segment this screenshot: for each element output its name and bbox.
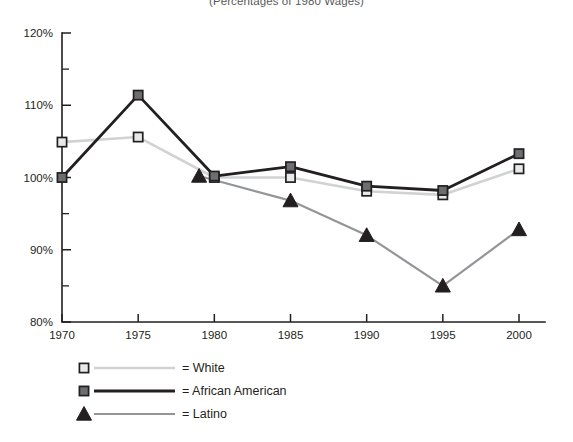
data-point-marker — [134, 91, 143, 100]
legend-item-latino[interactable]: = Latino — [77, 407, 227, 422]
legend-marker — [77, 407, 92, 421]
data-point-marker — [362, 182, 371, 191]
legend-label: = African American — [182, 384, 287, 398]
legend-label: = White — [182, 361, 225, 375]
data-point-marker — [57, 137, 66, 146]
series-line — [199, 176, 519, 286]
chart-legend: = White= African American= Latino — [77, 361, 287, 421]
legend-marker — [79, 386, 88, 395]
data-point-marker — [192, 169, 207, 183]
data-point-marker — [57, 173, 66, 182]
data-point-marker — [210, 171, 219, 180]
x-axis-tick-label: 1990 — [354, 329, 380, 341]
chart-series-group — [57, 91, 526, 292]
data-point-marker — [514, 149, 523, 158]
data-point-marker — [286, 162, 295, 171]
data-point-marker — [514, 164, 523, 173]
y-axis-tick-label: 90% — [30, 244, 53, 256]
y-axis-labels: 80%90%100%110%120% — [24, 27, 53, 328]
y-axis-tick-label: 100% — [24, 172, 53, 184]
data-point-marker — [435, 278, 450, 292]
legend-label: = Latino — [182, 407, 227, 421]
y-axis-tick-label: 110% — [24, 99, 53, 111]
series-latino — [199, 176, 519, 286]
data-point-marker — [286, 173, 295, 182]
legend-item-african-american[interactable]: = African American — [79, 384, 286, 398]
data-point-marker — [359, 228, 374, 242]
legend-marker — [79, 363, 88, 372]
x-axis-tick-label: 1985 — [278, 329, 304, 341]
legend-item-white[interactable]: = White — [79, 361, 224, 375]
chart-container: (Percentages of 1980 Wages) 80%90%100%11… — [0, 0, 573, 442]
data-point-marker — [512, 222, 527, 236]
y-axis-tick-label: 120% — [24, 27, 53, 39]
line-chart: 80%90%100%110%120% 197019751980198519901… — [0, 0, 573, 442]
x-axis-tick-label: 1995 — [430, 329, 456, 341]
data-point-marker — [134, 132, 143, 141]
x-axis-tick-label: 1980 — [202, 329, 228, 341]
y-axis-tick-label: 80% — [30, 316, 53, 328]
x-axis-tick-label: 1975 — [125, 329, 151, 341]
x-axis-labels: 1970197519801985199019952000 — [49, 329, 532, 341]
data-point-marker — [438, 186, 447, 195]
x-axis-tick-label: 2000 — [506, 329, 532, 341]
x-axis-tick-label: 1970 — [49, 329, 75, 341]
